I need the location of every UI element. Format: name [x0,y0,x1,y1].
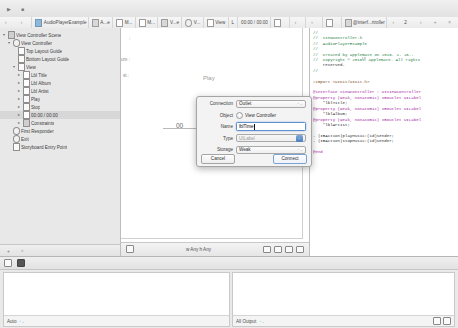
variables-scope-label: Auto [7,319,16,324]
jumpbar-segment-project[interactable]: AudioPlayerExample [32,17,88,28]
jumpbar-related-items[interactable] [271,17,290,28]
outline-item[interactable]: ▸Lbl Title [0,71,120,79]
connection-drag-line [163,128,197,129]
outline-item[interactable]: Bottom Layout Guide [0,55,120,63]
chevron-updown-icon: ⌃⌄ [259,320,265,324]
outline-item[interactable]: ▾View Controller [0,39,120,47]
hide-debug-icon[interactable] [4,259,12,267]
disclosure-triangle-icon[interactable]: ▸ [17,105,21,109]
jumpbar-assistant-file[interactable] [323,17,342,28]
chevron-down-icon[interactable]: ⌄ [296,135,303,142]
outline-item[interactable]: First Responder [0,127,120,135]
outline-item[interactable]: ▸00:00 / 00:00 [0,111,120,119]
variables-filter-icon[interactable] [220,318,226,324]
canvas-label-title[interactable]: : [129,36,130,41]
entry-point-icon [13,143,20,151]
outline-item[interactable]: ▸Play [0,95,120,103]
disclosure-triangle-icon[interactable]: ▾ [12,65,16,69]
jumpbar-forward[interactable]: › [16,17,33,28]
jumpbar-segment-label[interactable]: L [229,17,238,28]
type-combo[interactable]: UILabel ⌄ [236,134,306,142]
jumpbar-label: V...e [170,20,179,25]
debug-toolbar [0,257,458,270]
jumpbar-segment-storyboard[interactable]: V...e [158,17,182,28]
outline-item[interactable]: ▸Constraints [0,119,120,127]
view-as-button[interactable] [121,245,134,254]
align-icon[interactable] [263,246,271,254]
label-icon [23,111,30,119]
size-class-label[interactable]: w Any h Any [134,247,263,252]
connection-popup[interactable]: Outlet ⌃⌄ [236,100,306,108]
jumpbar-segment-folder[interactable]: A...e [89,17,113,28]
outline-item[interactable]: Exit [0,135,120,143]
outline-item-label: 00:00 / 00:00 [31,113,58,118]
chevron-left-icon: ‹ [293,20,299,25]
name-value: lblTime [239,124,254,129]
connection-dialog[interactable]: Connection Outlet ⌃⌄ Object View Control… [196,96,312,167]
add-object-icon[interactable]: + [3,246,14,256]
jumpbar-segment-view[interactable]: View [204,17,229,28]
jumpbar-assistant-symbol[interactable]: @interf...rtroller [342,17,388,28]
outline-item[interactable]: Top Layout Guide [0,47,120,55]
outline-item-label: Exit [21,137,29,142]
name-input[interactable]: lblTime [236,122,306,131]
canvas-label-album[interactable]: um : [121,57,130,62]
console-view[interactable]: All Output ⌃⌄ [232,272,455,327]
resolve-icon[interactable] [285,246,293,254]
filter-icon[interactable]: ⌕ [17,246,28,256]
disclosure-triangle-icon[interactable]: ▾ [2,33,6,37]
jumpbar-assistant-back[interactable]: ‹ [290,17,307,28]
jumpbar-segment-scene[interactable]: V... [182,17,203,28]
navigator-pane: ▾View Controller Scene▾View ControllerTo… [0,28,121,256]
variables-scope-popup[interactable]: Auto ⌃⌄ [7,319,25,324]
jumpbar-assistant-forward[interactable]: › [306,17,323,28]
canvas-label-artist[interactable]: st : [123,73,129,78]
disclosure-triangle-icon[interactable]: ▸ [17,89,21,93]
storage-value: Weak [239,147,251,152]
stop-button[interactable]: ■ [17,4,28,14]
jumpbar-segment-file-1[interactable]: M... [113,17,136,28]
cancel-button[interactable]: Cancel [201,154,235,165]
outline-item[interactable]: ▾View [0,63,120,71]
run-button[interactable]: ▶ [3,4,14,14]
outline-item-label: Lbl Album [31,81,51,86]
camera-icon[interactable] [17,259,25,267]
outline-item[interactable]: ▸Lbl Artist [0,87,120,95]
disclosure-triangle-icon[interactable]: ▸ [17,81,21,85]
disclosure-triangle-icon[interactable]: ▸ [17,73,21,77]
split-view-icon[interactable] [433,317,441,325]
split-view-icon[interactable] [443,317,451,325]
jumpbar-assistant-prev[interactable]: ‹ [387,17,401,28]
jumpbar-back[interactable]: ‹ [0,17,16,28]
disclosure-triangle-icon[interactable]: ▸ [17,97,21,101]
object-radio-group[interactable]: View Controller [236,112,306,119]
jumpbar-add-editor[interactable]: + [429,17,444,28]
chevron-updown-icon: ⌃⌄ [19,320,25,324]
resize-icon[interactable] [296,246,304,254]
jumpbar-assistant-next[interactable]: › [415,17,429,28]
type-field: UILabel ⌄ [236,134,306,142]
disclosure-triangle-icon[interactable]: ▸ [17,121,21,125]
viewcontroller-icon [13,39,20,47]
disclosure-triangle-icon[interactable]: ▸ [17,113,21,117]
outline-item[interactable]: ▸Stop [0,103,120,111]
chevron-right-icon: › [19,20,25,25]
radio-icon[interactable] [236,112,243,119]
canvas-play-button[interactable]: Play [203,75,215,81]
connect-button[interactable]: Connect [273,154,307,165]
storage-popup[interactable]: Weak ⌃⌄ [236,146,306,154]
outline-item[interactable]: ▸Lbl Album [0,79,120,87]
outline-item[interactable]: Storyboard Entry Point [0,143,120,151]
dialog-row-name: Name lblTime [197,122,311,132]
disclosure-triangle-icon[interactable]: ▾ [7,41,11,45]
outline-item[interactable]: ▾View Controller Scene [0,31,120,39]
jumpbar-close-editor[interactable]: × [443,17,458,28]
source-code[interactable]: //// ViewController.h// AudioPlayerExamp… [310,28,458,155]
pin-icon[interactable] [274,246,282,254]
jumpbar-segment-file-2[interactable]: M... [136,17,159,28]
jumpbar-segment-time[interactable]: 00:00 / 00:00 [238,17,271,28]
variables-view[interactable]: Auto ⌃⌄ [3,272,230,327]
trash-icon[interactable] [425,318,431,324]
console-scope-popup[interactable]: All Output ⌃⌄ [236,319,265,324]
button-icon [23,103,30,111]
